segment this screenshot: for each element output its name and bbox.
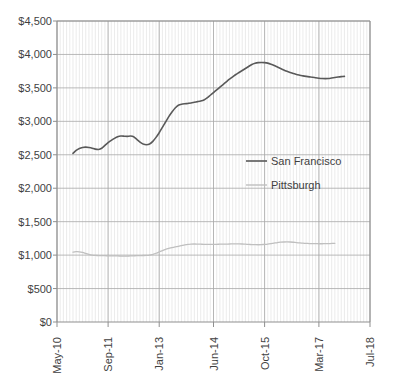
y-axis-tick-label: $4,000 bbox=[18, 48, 52, 60]
x-axis-tick-label: Jul-18 bbox=[364, 337, 376, 367]
x-axis-tick-label: Jan-13 bbox=[153, 337, 165, 371]
y-axis-tick-label: $4,500 bbox=[18, 15, 52, 27]
x-tick-marks bbox=[57, 322, 370, 327]
y-axis-tick-label: $500 bbox=[28, 283, 52, 295]
chart-container: $0$500$1,000$1,500$2,000$2,500$3,000$3,5… bbox=[0, 0, 393, 383]
y-axis-tick-label: $3,000 bbox=[18, 115, 52, 127]
x-axis-tick-label: Mar-17 bbox=[313, 337, 325, 372]
y-axis-tick-label: $1,000 bbox=[18, 249, 52, 261]
x-axis-tick-label: Jun-14 bbox=[208, 337, 220, 371]
x-axis-tick-labels: May-10Sep-11Jan-13Jun-14Oct-15Mar-17Jul-… bbox=[51, 337, 376, 374]
legend-label-pittsburgh: Pittsburgh bbox=[271, 179, 321, 191]
x-axis-tick-label: Sep-11 bbox=[102, 337, 114, 372]
series-line-san-francisco bbox=[73, 62, 344, 153]
x-axis-tick-label: May-10 bbox=[51, 337, 63, 374]
legend-label-san-francisco: San Francisco bbox=[271, 155, 341, 167]
y-axis-tick-label: $2,000 bbox=[18, 182, 52, 194]
line-chart: $0$500$1,000$1,500$2,000$2,500$3,000$3,5… bbox=[0, 0, 393, 383]
y-axis-tick-label: $2,500 bbox=[18, 149, 52, 161]
y-axis-tick-label: $0 bbox=[40, 316, 52, 328]
major-vertical-gridlines bbox=[57, 21, 370, 322]
y-axis-tick-labels: $0$500$1,000$1,500$2,000$2,500$3,000$3,5… bbox=[18, 15, 57, 328]
x-axis-tick-label: Oct-15 bbox=[259, 337, 271, 370]
y-axis-tick-label: $3,500 bbox=[18, 82, 52, 94]
y-axis-tick-label: $1,500 bbox=[18, 216, 52, 228]
